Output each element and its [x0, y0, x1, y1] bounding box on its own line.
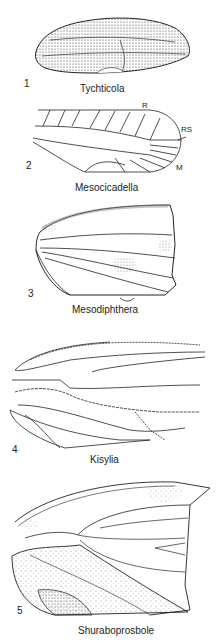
- figure-label-kisylia: Kisylia: [90, 454, 119, 465]
- wing-kisylia: [10, 342, 205, 448]
- figure-number-1: 1: [24, 78, 30, 89]
- wing-mesocicadella: [33, 110, 186, 172]
- figure-label-tychticola: Tychticola: [80, 83, 124, 94]
- wing-mesodiphthera: [36, 205, 176, 301]
- figure-number-2: 2: [26, 160, 32, 171]
- figure-number-3: 3: [28, 288, 34, 299]
- vein-label-m: M: [176, 163, 183, 172]
- wing-drawings: [0, 0, 221, 641]
- figure-label-mesodiphthera: Mesodiphthera: [72, 304, 138, 315]
- figure-number-4: 4: [12, 444, 18, 455]
- vein-label-r: R: [142, 101, 148, 110]
- wing-tychticola: [35, 18, 189, 73]
- wing-shuraboprosbole: [12, 482, 210, 615]
- vein-label-rs: RS: [181, 125, 192, 134]
- figure-label-shuraboprosbole: Shuraboprosbole: [78, 625, 154, 636]
- figure-number-5: 5: [17, 605, 23, 616]
- figure-label-mesocicadella: Mesocicadella: [75, 182, 138, 193]
